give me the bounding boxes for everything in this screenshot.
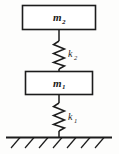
upper-mass-label: m bbox=[53, 11, 62, 23]
ground-hatching bbox=[11, 138, 104, 149]
lower-mass-subscript: 1 bbox=[62, 83, 66, 91]
lower-spring-coil bbox=[54, 103, 65, 131]
upper-spring-coil bbox=[54, 41, 65, 69]
lower-mass-label: m bbox=[53, 77, 62, 89]
lower-spring-subscript: 1 bbox=[74, 117, 77, 124]
upper-spring-subscript: 2 bbox=[74, 54, 78, 61]
lower-spring-label: k bbox=[68, 111, 73, 122]
upper-mass-subscript: 2 bbox=[61, 18, 66, 26]
mass-spring-diagram: m 2 k 2 m 1 k 1 bbox=[0, 0, 119, 154]
diagram-canvas: m 2 k 2 m 1 k 1 bbox=[0, 0, 119, 154]
upper-spring-label: k bbox=[68, 48, 73, 59]
